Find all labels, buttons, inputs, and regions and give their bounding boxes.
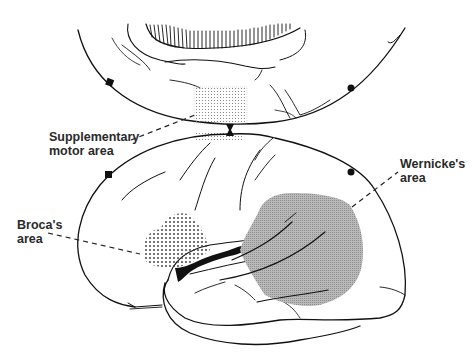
wernickes-area-label: Wernicke's area [400, 157, 465, 185]
supplementary-motor-area-region [194, 87, 247, 124]
brocas-area-region [143, 213, 210, 268]
hourglass-marker [226, 124, 234, 136]
circle-marker-lower [348, 169, 355, 176]
sma-leader [131, 115, 195, 140]
wernicke-leader [352, 172, 398, 207]
square-marker-upper [105, 78, 114, 87]
supplementary-motor-area-label: Supplementary motor area [49, 130, 139, 158]
hatching [150, 24, 290, 48]
brocas-area-label: Broca's area [17, 218, 62, 246]
hatched-region-outline [146, 24, 300, 48]
square-marker-lower [105, 171, 112, 178]
lower-outline [78, 134, 230, 307]
circle-marker-upper [348, 85, 355, 92]
